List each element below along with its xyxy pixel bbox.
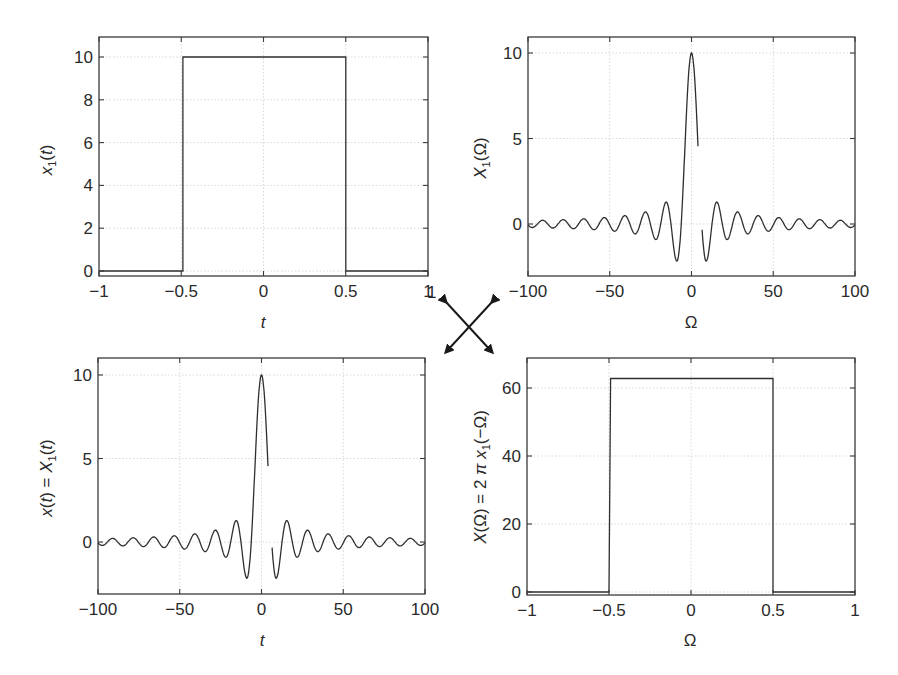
x-tick-label: −100 [79, 600, 117, 619]
y-tick-label: 5 [83, 450, 92, 469]
y-tick-label: 0 [84, 262, 93, 281]
x-tick-label: −50 [165, 600, 194, 619]
x-tick-label: −100 [509, 282, 547, 301]
panel-bottom-right: −1−0.500.510204060 [502, 358, 860, 620]
x-tick-label: 0 [686, 601, 695, 620]
x-tick-label: −0.5 [592, 601, 626, 620]
x-tick-label: 100 [411, 600, 439, 619]
figure: −1−0.500.510246810 −100−500501000510 −10… [0, 0, 898, 675]
ylabel-top-right: X1(Ω) [471, 137, 492, 180]
x-tick-label: 0.5 [334, 282, 358, 301]
y-tick-label: 5 [513, 130, 522, 149]
xlabel-bottom-left: t [260, 631, 266, 650]
ylabel-bottom-left: x(t) = X1(t) [37, 439, 58, 518]
panel-top-right: −100−500501000510 [503, 37, 869, 301]
x-tick-label: −0.5 [164, 282, 198, 301]
sinc-curve [272, 521, 425, 579]
x-tick-label: 0 [687, 282, 696, 301]
x-tick-label: −50 [595, 282, 624, 301]
y-tick-label: 2 [84, 219, 93, 238]
panel-bottom-left: −100−500501000510 [73, 358, 439, 619]
x-tick-label: −1 [89, 282, 108, 301]
x-tick-label: 0 [257, 600, 266, 619]
y-tick-label: 10 [73, 366, 92, 385]
sinc-curve [528, 53, 698, 261]
sinc-curve [98, 375, 268, 578]
ylabel-top-left: x1(t) [37, 145, 58, 177]
xlabel-bottom-right: Ω [684, 631, 697, 650]
y-tick-label: 10 [503, 44, 522, 63]
y-tick-label: 8 [84, 91, 93, 110]
x-tick-label: 0 [259, 282, 268, 301]
x-tick-label: 50 [764, 282, 783, 301]
x-tick-label: 100 [841, 282, 869, 301]
arrow-label-left: 1 [427, 283, 436, 302]
x-tick-label: 50 [334, 600, 353, 619]
panel-top-left: −1−0.500.510246810 [74, 37, 433, 301]
y-tick-label: 0 [83, 533, 92, 552]
y-tick-label: 10 [74, 48, 93, 67]
y-tick-label: 20 [502, 515, 521, 534]
y-tick-label: 6 [84, 134, 93, 153]
x-tick-label: −1 [517, 601, 536, 620]
y-tick-label: 40 [502, 447, 521, 466]
ylabel-bottom-right: X(Ω) = 2 π x1(−Ω) [471, 410, 492, 545]
xlabel-top-left: t [261, 313, 267, 332]
xlabel-top-right: Ω [685, 313, 698, 332]
sinc-curve [702, 202, 855, 261]
y-tick-label: 60 [502, 379, 521, 398]
x-tick-label: 0.5 [761, 601, 785, 620]
duality-arrows: 1 [427, 283, 492, 352]
x-tick-label: 1 [850, 601, 859, 620]
y-tick-label: 0 [513, 215, 522, 234]
y-tick-label: 0 [512, 583, 521, 602]
y-tick-label: 4 [84, 176, 93, 195]
